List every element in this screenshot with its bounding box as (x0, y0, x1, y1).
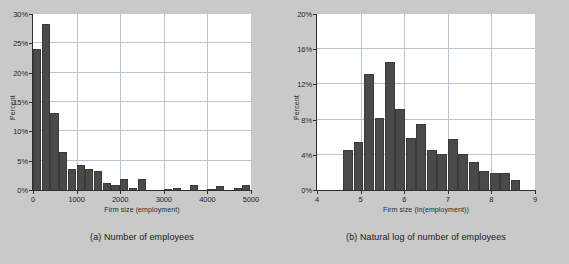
y-tick-label: 0% (17, 186, 28, 195)
panel-b-plot-shell: Percent 0%4%8%12%16%20% Firm size (ln(em… (284, 0, 568, 222)
x-tick-mark (33, 191, 34, 194)
panel-b-caption: (b) Natural log of number of employees (284, 232, 568, 242)
y-axis-line (32, 14, 33, 190)
gridline-horizontal (317, 48, 535, 49)
histogram-bar (406, 138, 416, 190)
panel-a-x-axis-title: Firm size (employment) (104, 206, 179, 213)
y-tick-label: 0% (301, 186, 312, 195)
histogram-bar (416, 124, 426, 190)
gridline-vertical (164, 14, 165, 190)
panel-b-y-tick-labels: 0%4%8%12%16%20% (286, 14, 312, 190)
histogram-bar (59, 152, 67, 190)
histogram-bar (458, 154, 468, 190)
x-tick-mark (535, 191, 536, 194)
x-tick-label: 6 (402, 195, 406, 204)
y-tick-label: 16% (297, 45, 312, 54)
x-tick-label: 9 (533, 195, 537, 204)
y-tick-label: 4% (301, 150, 312, 159)
y-tick-label: 5% (17, 156, 28, 165)
x-axis-line (32, 190, 252, 191)
histogram-bar (120, 179, 128, 190)
x-tick-label: 7 (446, 195, 450, 204)
panel-a-plot-shell: Percent 0%5%10%15%20%25%30% Firm size (e… (0, 0, 284, 222)
x-tick-label: 5000 (243, 195, 259, 204)
y-tick-label: 25% (13, 39, 28, 48)
gridline-horizontal (33, 130, 251, 131)
x-tick-mark (164, 191, 165, 194)
x-tick-mark (120, 191, 121, 194)
gridline-horizontal (317, 119, 535, 120)
x-tick-mark (404, 191, 405, 194)
y-tick-mark (29, 73, 32, 74)
x-tick-label: 3000 (156, 195, 172, 204)
histogram-bar (448, 139, 458, 190)
y-tick-label: 8% (301, 115, 312, 124)
x-tick-mark (77, 191, 78, 194)
histogram-bar (500, 173, 510, 190)
histogram-bar (395, 109, 405, 190)
y-tick-mark (313, 84, 316, 85)
x-tick-label: 4000 (199, 195, 215, 204)
gridline-horizontal (33, 101, 251, 102)
histogram-bar (427, 150, 437, 190)
y-tick-label: 15% (13, 98, 28, 107)
x-tick-label: 4 (315, 195, 319, 204)
histogram-bar (103, 183, 111, 190)
histogram-bar (479, 171, 489, 190)
x-tick-mark (491, 191, 492, 194)
histogram-bar (511, 180, 521, 190)
y-tick-mark (29, 161, 32, 162)
panel-a-plot-area (33, 14, 251, 190)
x-tick-mark (448, 191, 449, 194)
panel-b-x-axis-title: Firm size (ln(employment)) (383, 206, 469, 213)
histogram-bar (364, 74, 374, 190)
y-tick-mark (313, 14, 316, 15)
gridline-vertical (120, 14, 121, 190)
histogram-bar (375, 118, 385, 190)
histogram-bar (490, 173, 500, 190)
y-axis-line (316, 14, 317, 190)
x-tick-label: 0 (31, 195, 35, 204)
y-tick-label: 30% (13, 10, 28, 19)
histogram-bar (437, 154, 447, 190)
gridline-vertical (491, 14, 492, 190)
panel-b: Percent 0%4%8%12%16%20% Firm size (ln(em… (284, 0, 568, 264)
x-tick-mark (207, 191, 208, 194)
x-tick-label: 1000 (68, 195, 84, 204)
y-tick-label: 20% (13, 68, 28, 77)
histogram-bar (42, 24, 50, 190)
x-tick-mark (251, 191, 252, 194)
x-tick-mark (361, 191, 362, 194)
y-tick-mark (29, 14, 32, 15)
y-tick-label: 20% (297, 10, 312, 19)
histogram-bar (68, 169, 76, 190)
gridline-horizontal (317, 83, 535, 84)
x-axis-line (316, 190, 536, 191)
panel-b-plot-area (317, 14, 535, 190)
y-tick-label: 12% (297, 80, 312, 89)
y-tick-label: 10% (13, 127, 28, 136)
panel-a: Percent 0%5%10%15%20%25%30% Firm size (e… (0, 0, 284, 264)
gridline-horizontal (33, 72, 251, 73)
histogram-bar (50, 113, 58, 190)
x-tick-label: 2000 (112, 195, 128, 204)
y-tick-mark (313, 155, 316, 156)
panel-a-y-tick-labels: 0%5%10%15%20%25%30% (2, 14, 28, 190)
figure-two-panel-histograms: Percent 0%5%10%15%20%25%30% Firm size (e… (0, 0, 569, 264)
histogram-bar (138, 179, 146, 190)
histogram-bar (469, 162, 479, 190)
y-tick-mark (29, 102, 32, 103)
gridline-horizontal (33, 42, 251, 43)
histogram-bar (94, 171, 102, 190)
histogram-bar (77, 165, 85, 190)
gridline-vertical (207, 14, 208, 190)
y-tick-mark (29, 43, 32, 44)
histogram-bar (343, 150, 353, 190)
gridline-vertical (77, 14, 78, 190)
histogram-bar (385, 62, 395, 190)
x-tick-label: 5 (359, 195, 363, 204)
histogram-bar (354, 142, 364, 190)
x-tick-mark (317, 191, 318, 194)
y-tick-mark (29, 131, 32, 132)
histogram-bar (85, 169, 93, 190)
